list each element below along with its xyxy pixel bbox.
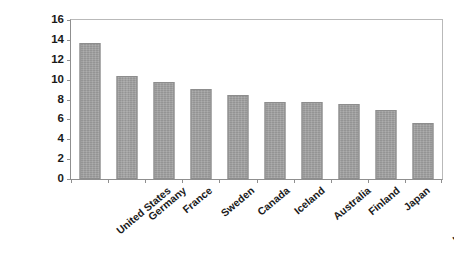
x-axis-tick-mark [108, 179, 109, 183]
x-axis-category-label: Iceland [292, 184, 327, 216]
y-axis-tick: 12 [37, 60, 71, 61]
bar-slot [331, 20, 368, 179]
bar-slot [219, 20, 256, 179]
bar-chart-figure: Percent of GDP 1614121086420 United Stat… [0, 0, 454, 270]
x-axis-category-label: Canada [255, 184, 292, 218]
bar-slot [71, 20, 108, 179]
y-axis-tick-label: 0 [58, 171, 64, 185]
bar-slot [368, 20, 405, 179]
y-axis-tick: 10 [37, 80, 71, 81]
bar-slot [294, 20, 331, 179]
x-axis-tick-mark [71, 179, 72, 183]
y-axis-tick: 4 [37, 139, 71, 140]
y-axis-tick-mark [67, 119, 71, 120]
x-axis-category-label: Japan [401, 184, 432, 213]
y-axis-tick-mark [67, 20, 71, 21]
bar[interactable] [79, 43, 100, 179]
y-axis-tick: 8 [37, 100, 71, 101]
y-axis-tick-mark [67, 100, 71, 101]
x-axis-tick-mark [219, 179, 220, 183]
bar[interactable] [227, 95, 248, 179]
bar[interactable] [153, 82, 174, 179]
y-axis-tick-mark [67, 139, 71, 140]
y-axis-tick-mark [67, 60, 71, 61]
x-axis-tick-mark [294, 179, 295, 183]
y-axis-tick-mark [67, 159, 71, 160]
plot-frame: 1614121086420 [70, 19, 443, 180]
plot-area [71, 20, 442, 179]
x-axis-tick-mark [257, 179, 258, 183]
y-axis-tick-mark [67, 179, 71, 180]
bar-slot [108, 20, 145, 179]
bar-slot [182, 20, 219, 179]
y-axis-tick-label: 12 [51, 52, 64, 66]
bar[interactable] [190, 89, 211, 179]
bar-slot [145, 20, 182, 179]
y-axis-tick-label: 2 [58, 151, 64, 165]
bar-slot [405, 20, 442, 179]
x-axis-tick-mark [405, 179, 406, 183]
x-axis-tick-mark [368, 179, 369, 183]
y-axis-tick-mark [67, 80, 71, 81]
x-axis-tick-mark [331, 179, 332, 183]
x-axis-category-label: Sweden [218, 184, 256, 219]
x-axis-tick-mark [441, 179, 442, 183]
y-axis-tick: 2 [37, 159, 71, 160]
bar-slot [257, 20, 294, 179]
bar[interactable] [376, 110, 397, 179]
bar[interactable] [339, 104, 360, 179]
y-axis-tick-label: 10 [51, 72, 64, 86]
y-axis-tick-label: 14 [51, 32, 64, 46]
x-axis-tick-mark [182, 179, 183, 183]
y-axis-title: Percent of GDP [4, 0, 16, 32]
y-axis-tick-mark [67, 40, 71, 41]
x-axis-tick-mark [145, 179, 146, 183]
y-axis-tick-label: 4 [58, 131, 64, 145]
y-axis-tick: 16 [37, 20, 71, 21]
bar[interactable] [413, 123, 434, 179]
y-axis-tick: 6 [37, 119, 71, 120]
bar[interactable] [302, 102, 323, 179]
y-axis-tick-label: 6 [58, 111, 64, 125]
y-axis-tick-label: 16 [51, 12, 64, 26]
x-axis-category-label: Finland [366, 184, 402, 217]
bar[interactable] [116, 76, 137, 179]
bar[interactable] [265, 102, 286, 180]
x-axis-category-label: Australia [331, 184, 373, 222]
y-axis-tick: 14 [37, 40, 71, 41]
x-axis-category-label: United Kingdom [450, 184, 454, 245]
y-axis-tick-label: 8 [58, 92, 64, 106]
y-axis-tick: 0 [37, 179, 71, 180]
